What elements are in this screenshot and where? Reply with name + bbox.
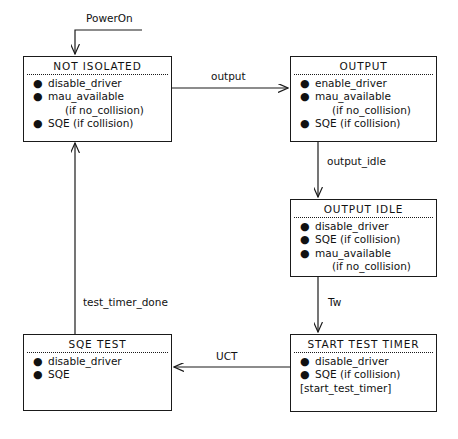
action-item: ● mau_available <box>295 90 432 103</box>
state-output[interactable]: OUTPUT ● enable_driver ● mau_available (… <box>290 56 437 142</box>
action-item: ● disable_driver <box>295 220 432 233</box>
action-item: ● mau_available <box>28 90 167 103</box>
action-item: ● SQE (if collision) <box>28 117 167 130</box>
bullet-icon: ● <box>28 368 48 381</box>
action-label: disable_driver <box>315 355 389 368</box>
bullet-icon: ● <box>28 90 48 103</box>
action-label: SQE (if collision) <box>315 233 400 246</box>
transition-label-output-idle: output_idle <box>327 155 386 167</box>
action-label: SQE (if collision) <box>315 368 400 381</box>
bullet-icon: ● <box>295 355 315 368</box>
action-label: mau_available <box>48 90 124 103</box>
action-label: mau_available <box>315 90 391 103</box>
state-sqe-test[interactable]: SQE TEST ● disable_driver ● SQE <box>23 334 172 411</box>
action-label: SQE <box>48 368 70 381</box>
action-continuation: (if no_collision) <box>295 260 432 273</box>
state-title: SQE TEST <box>24 335 171 352</box>
state-title: OUTPUT IDLE <box>291 200 436 217</box>
action-item: ● disable_driver <box>28 77 167 90</box>
state-actions: ● disable_driver ● SQE (if collision) [s… <box>291 355 436 397</box>
action-item: ● SQE (if collision) <box>295 368 432 381</box>
bullet-icon: ● <box>28 117 48 130</box>
state-diagram-canvas: NOT ISOLATED ● disable_driver ● mau_avai… <box>0 0 458 439</box>
state-actions: ● disable_driver ● SQE (if collision) ● … <box>291 220 436 276</box>
action-label: disable_driver <box>48 355 122 368</box>
state-title: OUTPUT <box>291 57 436 74</box>
action-item: ● disable_driver <box>28 355 167 368</box>
bullet-icon: ● <box>295 220 315 233</box>
bullet-icon: ● <box>28 77 48 90</box>
action-continuation: (if no_collision) <box>295 104 432 117</box>
action-label: SQE (if collision) <box>48 117 133 130</box>
transition-label-output: output <box>211 70 246 82</box>
state-actions: ● enable_driver ● mau_available (if no_c… <box>291 77 436 133</box>
state-not-isolated[interactable]: NOT ISOLATED ● disable_driver ● mau_avai… <box>23 56 172 142</box>
state-title: START TEST TIMER <box>291 335 436 352</box>
transition-label-uct: UCT <box>216 350 237 362</box>
action-item: ● SQE (if collision) <box>295 233 432 246</box>
state-start-test-timer[interactable]: START TEST TIMER ● disable_driver ● SQE … <box>290 334 437 412</box>
bullet-icon: ● <box>28 355 48 368</box>
bullet-icon: ● <box>295 77 315 90</box>
action-label: mau_available <box>315 247 391 260</box>
action-label: enable_driver <box>315 77 387 90</box>
state-separator <box>294 217 433 218</box>
state-title: NOT ISOLATED <box>24 57 171 74</box>
state-actions: ● disable_driver ● mau_available (if no_… <box>24 77 171 133</box>
transition-label-test-timer-done: test_timer_done <box>83 296 168 308</box>
state-separator <box>294 74 433 75</box>
state-actions: ● disable_driver ● SQE <box>24 355 171 384</box>
bullet-icon: ● <box>295 368 315 381</box>
state-separator <box>27 74 168 75</box>
action-label: SQE (if collision) <box>315 117 400 130</box>
action-item: ● disable_driver <box>295 355 432 368</box>
action-continuation: (if no_collision) <box>28 104 167 117</box>
action-item: ● SQE (if collision) <box>295 117 432 130</box>
action-bracketed: [start_test_timer] <box>295 382 432 395</box>
bullet-icon: ● <box>295 247 315 260</box>
action-item: ● mau_available <box>295 247 432 260</box>
action-item: ● enable_driver <box>295 77 432 90</box>
state-separator <box>294 352 433 353</box>
wire-power-on <box>75 30 142 54</box>
bullet-icon: ● <box>295 90 315 103</box>
bullet-icon: ● <box>295 233 315 246</box>
transition-label-tw: Tw <box>328 296 341 308</box>
state-separator <box>27 352 168 353</box>
action-label: disable_driver <box>48 77 122 90</box>
state-output-idle[interactable]: OUTPUT IDLE ● disable_driver ● SQE (if c… <box>290 199 437 277</box>
action-item: ● SQE <box>28 368 167 381</box>
action-label: disable_driver <box>315 220 389 233</box>
transition-label-power-on: PowerOn <box>86 12 133 24</box>
bullet-icon: ● <box>295 117 315 130</box>
